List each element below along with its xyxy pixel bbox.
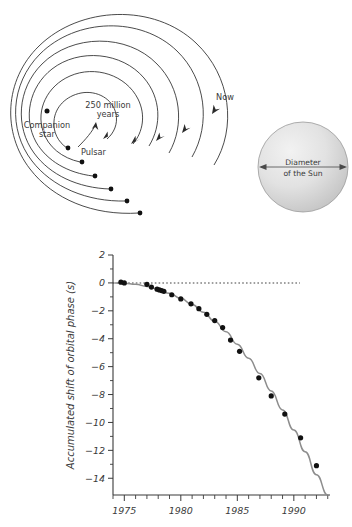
orbit-arrow-3 xyxy=(156,132,165,141)
orbit-turn-3 xyxy=(29,56,158,176)
data-point xyxy=(178,296,183,301)
pulsar-marker xyxy=(125,199,130,204)
data-point xyxy=(237,349,242,354)
data-point xyxy=(204,312,209,317)
phase-shift-chart: 20−2−4−6−8−10−12−14 1975198019851990 Acc… xyxy=(65,249,330,516)
pulsar-label: Pulsar xyxy=(81,147,107,157)
y-tick-label: 0 xyxy=(99,277,105,288)
x-axis-ticks xyxy=(113,495,328,501)
y-tick-label: −12 xyxy=(85,445,105,456)
x-tick-label: 1985 xyxy=(225,505,249,516)
spiral-diagram: Companion star 250 million years Pulsar … xyxy=(11,14,235,215)
y-tick-label: −14 xyxy=(85,473,105,484)
data-point xyxy=(256,375,261,380)
y-axis-ticks xyxy=(108,255,113,478)
pulsar-marker xyxy=(109,187,114,192)
data-point xyxy=(122,280,127,285)
x-tick-label: 1980 xyxy=(169,505,193,516)
orbit-arrow-5 xyxy=(212,105,220,114)
sun-caption-line1: Diameter xyxy=(285,158,321,167)
y-tick-label: −4 xyxy=(91,333,105,344)
x-axis-tick-labels: 1975198019851990 xyxy=(112,505,306,516)
data-point xyxy=(220,325,225,330)
y-tick-label: −8 xyxy=(91,389,105,400)
data-point xyxy=(212,318,217,323)
data-point xyxy=(228,338,233,343)
pulsar-marker xyxy=(93,174,98,179)
y-tick-label: −2 xyxy=(91,305,105,316)
y-tick-label: −6 xyxy=(91,361,105,372)
sun-caption-line2: of the Sun xyxy=(283,169,322,178)
sun-reference: Diameter of the Sun xyxy=(258,122,348,212)
timescale-label-line2: years xyxy=(97,109,120,119)
orbit-arrow-4 xyxy=(182,124,191,133)
data-point xyxy=(314,463,319,468)
data-point xyxy=(269,393,274,398)
pulsar-marker xyxy=(66,146,71,151)
now-label: Now xyxy=(216,92,234,102)
data-point xyxy=(298,435,303,440)
companion-star-marker xyxy=(45,109,50,114)
pulsar-marker xyxy=(138,211,143,216)
data-point xyxy=(282,411,287,416)
data-point xyxy=(196,306,201,311)
y-tick-label: −10 xyxy=(85,417,105,428)
companion-star-label-line2: star xyxy=(39,129,55,139)
gr-prediction-curve xyxy=(115,283,327,495)
data-point xyxy=(149,284,154,289)
y-axis-tick-labels: 20−2−4−6−8−10−12−14 xyxy=(85,249,105,483)
data-point xyxy=(169,292,174,297)
pulsar-marker xyxy=(80,160,85,165)
x-tick-label: 1975 xyxy=(112,505,136,516)
data-point xyxy=(144,282,149,287)
y-axis-title: Accumulated shift of orbital phase (s) xyxy=(65,281,76,470)
figure-root: Companion star 250 million years Pulsar … xyxy=(0,0,352,527)
x-tick-label: 1990 xyxy=(282,505,306,516)
data-point xyxy=(161,289,166,294)
observed-data-points xyxy=(118,280,319,469)
data-point xyxy=(188,301,193,306)
y-tick-label: 2 xyxy=(99,249,105,260)
orbit-arrow-2 xyxy=(131,136,140,144)
